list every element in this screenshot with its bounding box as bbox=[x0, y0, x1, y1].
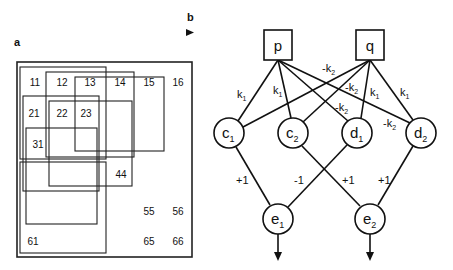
cell-label-66: 66 bbox=[172, 236, 184, 247]
weight-k1-p-c2: k1 bbox=[273, 84, 283, 98]
cell-label-13: 13 bbox=[84, 77, 96, 88]
cell-label-31: 31 bbox=[32, 139, 44, 150]
panel-b: b p q bbox=[186, 11, 436, 261]
output-arrow-e1-icon bbox=[274, 252, 282, 261]
cell-label-14: 14 bbox=[114, 77, 126, 88]
weight-k1-q-d1: k1 bbox=[370, 86, 380, 100]
weight-negk2-q-c2: -k2 bbox=[345, 81, 358, 95]
node-q-label: q bbox=[366, 37, 374, 54]
weight-negk2-q-c1: -k2 bbox=[322, 62, 335, 76]
panel-a: a 11121314151621222331445556616566 bbox=[14, 36, 192, 257]
cell-label-12: 12 bbox=[56, 77, 68, 88]
node-p-label: p bbox=[274, 37, 282, 54]
weight-c2-e2: +1 bbox=[342, 174, 355, 186]
edges bbox=[236, 60, 413, 254]
cell-label-16: 16 bbox=[172, 77, 184, 88]
panel-b-label: b bbox=[187, 11, 194, 23]
weight-c1-e1: +1 bbox=[236, 174, 249, 186]
weight-negk2-p-d2: -k2 bbox=[383, 117, 396, 131]
weight-d2-e2: +1 bbox=[378, 174, 391, 186]
figure-canvas: a 11121314151621222331445556616566 b bbox=[0, 0, 453, 270]
cell-label-22: 22 bbox=[56, 108, 68, 119]
cell-label-23: 23 bbox=[80, 108, 92, 119]
weight-d1-e1: -1 bbox=[294, 174, 304, 186]
output-arrow-e2-icon bbox=[366, 252, 374, 261]
cell-label-65: 65 bbox=[143, 236, 155, 247]
cell-label-56: 56 bbox=[172, 206, 184, 217]
cell-label-44: 44 bbox=[115, 169, 127, 180]
weight-k1-p-c1: k1 bbox=[237, 88, 247, 102]
cell-label-15: 15 bbox=[143, 77, 155, 88]
weight-negk2-p-d1: -k2 bbox=[335, 101, 348, 115]
cell-label-55: 55 bbox=[143, 206, 155, 217]
cell-label-21: 21 bbox=[28, 108, 40, 119]
cell-label-11: 11 bbox=[30, 77, 41, 88]
cell-label-61: 61 bbox=[27, 236, 39, 247]
panel-a-label: a bbox=[14, 36, 21, 48]
arrow-marker-icon bbox=[186, 29, 194, 36]
weight-k1-q-d2: k1 bbox=[400, 86, 410, 100]
